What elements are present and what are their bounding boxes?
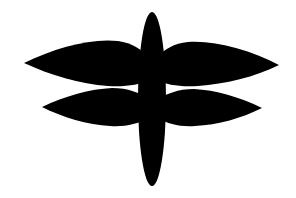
dragonfly-figure: Black dragonfly silhouette icon on white…	[0, 0, 296, 198]
dragonfly-icon	[0, 0, 296, 198]
dragonfly-body	[138, 12, 166, 186]
